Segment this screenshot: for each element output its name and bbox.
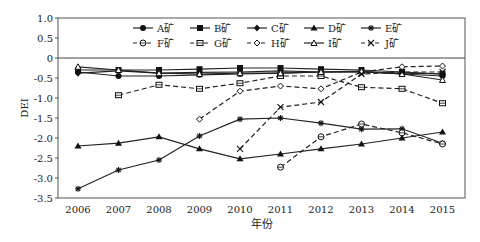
legend-label: C矿 — [271, 22, 289, 34]
legend-label: B矿 — [214, 22, 231, 34]
y-tick-label: -3.5 — [34, 193, 53, 204]
square-marker-icon — [197, 25, 203, 31]
legend-item: D矿 — [304, 22, 346, 34]
dei-line-chart: 1.00.50-0.5-1.0-1.5-2.0-2.5-3.0-3.520062… — [0, 0, 480, 242]
star-marker-icon — [318, 120, 324, 126]
star-marker-icon — [278, 115, 284, 121]
legend-label: E矿 — [385, 22, 402, 34]
x-tick-label: 2011 — [268, 204, 293, 215]
legend-item: B矿 — [190, 22, 231, 34]
diamond-marker-icon — [254, 25, 260, 32]
x-tick-label: 2006 — [65, 204, 90, 215]
legend-label: A矿 — [156, 22, 174, 34]
y-tick-label: -1.0 — [34, 93, 53, 104]
open-diamond-marker-icon — [318, 86, 324, 92]
y-tick-label: -2.5 — [34, 153, 53, 164]
legend-label: D矿 — [328, 22, 346, 34]
x-tick-label: 2012 — [308, 204, 333, 215]
legend-label: F矿 — [157, 37, 174, 49]
legend-item: H矿 — [247, 37, 290, 49]
y-tick-label: -2.0 — [34, 133, 53, 144]
x-tick-label: 2015 — [430, 204, 455, 215]
circle-marker-icon — [140, 25, 146, 31]
x-tick-label: 2008 — [146, 204, 171, 215]
star-marker-icon — [368, 25, 374, 31]
open-diamond-marker-icon — [399, 64, 405, 70]
triangle-marker-icon — [439, 129, 446, 135]
legend-item: I矿 — [304, 37, 342, 49]
x-tick-label: 2009 — [187, 204, 212, 215]
star-marker-icon — [75, 186, 81, 192]
star-marker-icon — [116, 167, 122, 173]
legend-item: J矿 — [361, 37, 399, 49]
chart-svg: 1.00.50-0.5-1.0-1.5-2.0-2.5-3.0-3.520062… — [0, 0, 480, 242]
x-tick-label: 2014 — [389, 204, 414, 215]
open-diamond-marker-icon — [254, 40, 260, 46]
x-marker-icon — [237, 146, 243, 152]
legend-label: G矿 — [214, 37, 232, 49]
y-tick-label: -3.0 — [34, 173, 53, 184]
star-marker-icon — [156, 157, 162, 163]
legend-item: E矿 — [361, 22, 402, 34]
series-D矿 — [75, 129, 447, 162]
open-diamond-marker-icon — [440, 63, 446, 69]
x-tick-label: 2013 — [349, 204, 374, 215]
series-line — [240, 72, 443, 149]
series-E矿 — [75, 115, 446, 192]
legend: A矿B矿C矿D矿E矿F矿G矿H矿I矿J矿 — [133, 22, 402, 49]
x-axis-label: 年份 — [251, 217, 273, 231]
legend-item: F矿 — [133, 37, 174, 49]
legend-item: G矿 — [190, 37, 232, 49]
y-tick-label: 0.5 — [37, 33, 53, 44]
open-diamond-marker-icon — [237, 88, 243, 94]
y-tick-label: 0 — [47, 53, 53, 64]
legend-label: J矿 — [384, 37, 399, 49]
legend-item: C矿 — [247, 22, 289, 34]
legend-label: I矿 — [328, 37, 342, 49]
series-lines — [75, 63, 447, 192]
x-tick-label: 2007 — [106, 204, 131, 215]
star-marker-icon — [197, 133, 203, 139]
open-diamond-marker-icon — [278, 83, 284, 89]
legend-label: H矿 — [271, 37, 290, 49]
y-axis-label: DEI — [19, 98, 30, 117]
series-line — [78, 132, 443, 159]
star-marker-icon — [237, 116, 243, 122]
y-tick-label: -0.5 — [34, 73, 53, 84]
x-tick-label: 2010 — [227, 204, 252, 215]
triangle-marker-icon — [156, 133, 163, 139]
legend-item: A矿 — [133, 22, 174, 34]
y-tick-label: -1.5 — [34, 113, 53, 124]
y-tick-label: 1.0 — [37, 13, 53, 24]
